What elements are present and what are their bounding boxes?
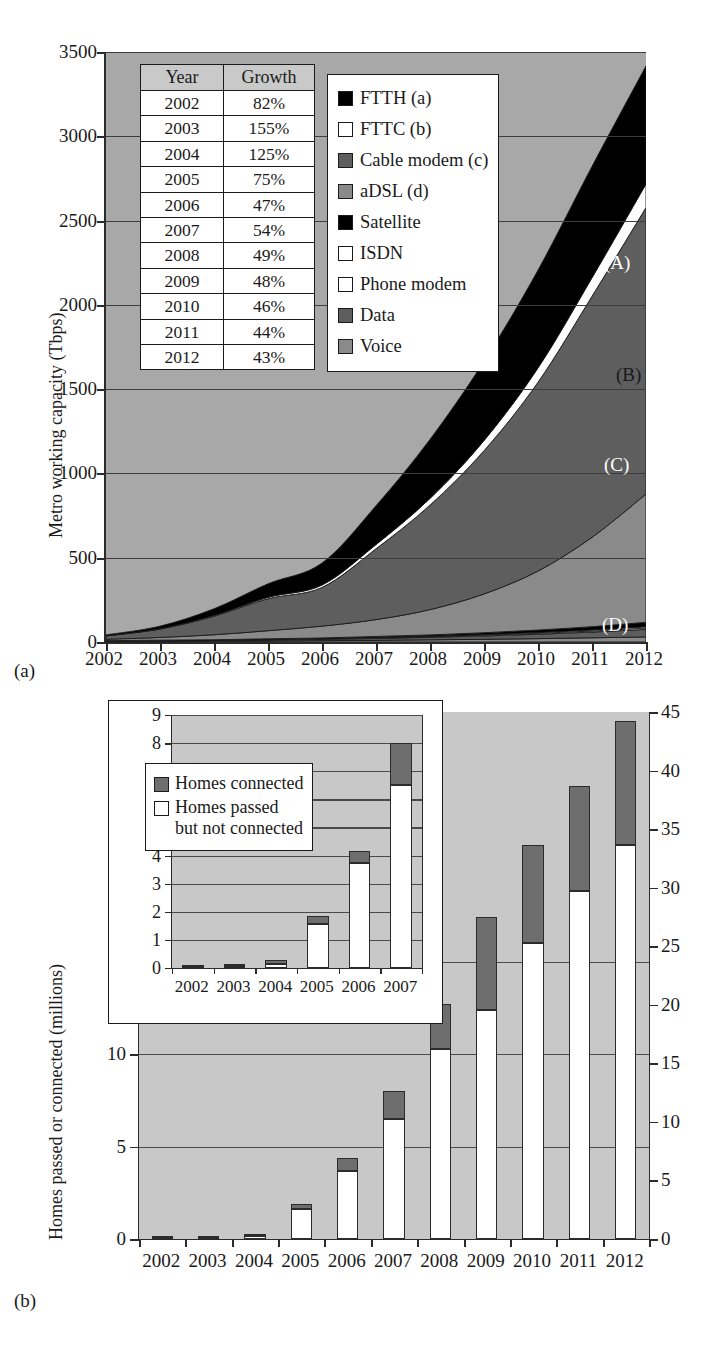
table-cell: 2010	[141, 294, 224, 319]
area-band-label: (B)	[616, 364, 641, 386]
bar-column	[337, 1158, 358, 1239]
bar-segment-homes-connected	[244, 1234, 265, 1236]
inset-y-tick-label: 2	[152, 901, 161, 922]
right-y-tick-mark	[649, 1005, 658, 1007]
inset-bar-segment-homes-connected	[182, 965, 204, 967]
legend-swatch-icon	[154, 801, 169, 816]
table-cell: 2012	[141, 344, 224, 369]
table-cell: 46%	[224, 294, 315, 319]
table-cell: 2004	[141, 141, 224, 166]
bar-segment-homes-passed	[476, 1010, 497, 1239]
x-tick-label: 2006	[301, 648, 339, 670]
bar-segment-homes-connected	[615, 721, 636, 845]
x-tick-label: 2002	[142, 1250, 180, 1272]
inset-x-tick-mark	[172, 968, 173, 974]
legend-label: Voice	[360, 336, 402, 357]
x-tick-mark	[649, 1239, 651, 1247]
inset-x-tick-label: 2002	[175, 977, 209, 997]
x-tick-mark	[603, 1239, 605, 1247]
legend-label: Cable modem (c)	[360, 150, 488, 171]
legend-label: ISDN	[360, 243, 403, 264]
legend-item: FTTC (b)	[338, 114, 488, 145]
table-cell: 2009	[141, 268, 224, 293]
table-cell: 2008	[141, 243, 224, 268]
right-y-tick-mark	[649, 1122, 658, 1124]
inset-bar-segment-homes-passed	[265, 964, 287, 968]
inset-legend: Homes connectedHomes passedbut not conne…	[145, 763, 313, 851]
table-row: 2004125%	[141, 141, 315, 166]
inset-y-tick-mark	[165, 856, 172, 857]
legend-swatch-icon	[338, 246, 353, 261]
x-tick-label: 2008	[409, 648, 447, 670]
x-tick-mark	[371, 1239, 373, 1247]
x-tick-label: 2008	[420, 1250, 458, 1272]
legend-swatch-icon	[338, 122, 353, 137]
x-tick-label: 2003	[189, 1250, 227, 1272]
table-row: 200647%	[141, 192, 315, 217]
x-tick-label: 2012	[625, 648, 663, 670]
legend-item: Cable modem (c)	[338, 145, 488, 176]
y-tick-label: 3500	[59, 41, 97, 63]
x-tick-mark	[510, 1239, 512, 1247]
y-tick-mark	[97, 473, 106, 475]
inset-x-tick-label: 2004	[258, 977, 292, 997]
x-tick-mark	[417, 1239, 419, 1247]
gridline	[172, 884, 422, 885]
growth-table: YearGrowth 200282%2003155%2004125%200575…	[140, 64, 315, 370]
left-y-tick-label: 5	[117, 1136, 127, 1158]
table-cell: 54%	[224, 217, 315, 242]
bar-segment-homes-connected	[476, 917, 497, 1009]
right-y-tick-mark	[649, 771, 658, 773]
inset-y-tick-label: 1	[152, 929, 161, 950]
inset-bar-segment-homes-connected	[265, 960, 287, 964]
bar-column	[383, 1091, 404, 1239]
x-tick-label: 2009	[467, 1250, 505, 1272]
x-tick-mark	[278, 1239, 280, 1247]
figure-a-legend: FTTH (a)FTTC (b)Cable modem (c)aDSL (d)S…	[327, 74, 499, 372]
gridline	[106, 558, 646, 559]
inset-bar-segment-homes-passed	[349, 863, 371, 968]
x-tick-label: 2002	[85, 648, 123, 670]
bar-column	[476, 917, 497, 1239]
table-column-header: Year	[141, 65, 224, 91]
y-tick-mark	[97, 136, 106, 138]
panel-label-a: (a)	[14, 660, 35, 682]
x-tick-label: 2011	[571, 648, 608, 670]
legend-item: Satellite	[338, 207, 488, 238]
x-tick-label: 2006	[328, 1250, 366, 1272]
x-tick-label: 2010	[517, 648, 555, 670]
inset-y-tick-mark	[165, 884, 172, 885]
inset-bar-column	[390, 743, 412, 968]
inset-y-tick-label: 3	[152, 873, 161, 894]
left-y-tick-label: 10	[107, 1043, 126, 1065]
inset-y-tick-mark	[165, 715, 172, 716]
bar-column	[244, 1234, 265, 1239]
bar-segment-homes-connected	[152, 1236, 173, 1238]
table-column-header: Growth	[224, 65, 315, 91]
right-y-tick-label: 15	[661, 1052, 680, 1074]
bar-segment-homes-connected	[291, 1204, 312, 1210]
right-y-tick-label: 20	[661, 994, 680, 1016]
legend-label: aDSL (d)	[360, 181, 429, 202]
bar-column	[569, 786, 590, 1239]
table-cell: 155%	[224, 116, 315, 141]
right-y-tick-label: 45	[661, 701, 680, 723]
legend-swatch-icon	[338, 215, 353, 230]
inset-x-tick-mark	[297, 968, 298, 974]
figure-a-area-chart: Metro working capacity (Tbps) 0500100015…	[0, 0, 721, 690]
bar-segment-homes-connected	[337, 1158, 358, 1171]
x-tick-label: 2010	[513, 1250, 551, 1272]
inset-x-tick-mark	[339, 968, 340, 974]
table-row: 201243%	[141, 344, 315, 369]
gridline	[106, 389, 646, 390]
y-tick-label: 3000	[59, 125, 97, 147]
right-y-tick-label: 10	[661, 1111, 680, 1133]
inset-x-tick-label: 2003	[217, 977, 251, 997]
bar-segment-homes-connected	[522, 845, 543, 943]
gridline	[172, 940, 422, 941]
inset-bar-segment-homes-passed	[224, 966, 246, 968]
inset-x-tick-label: 2005	[300, 977, 334, 997]
legend-swatch-icon	[338, 153, 353, 168]
gridline	[172, 912, 422, 913]
table-row: 200575%	[141, 167, 315, 192]
